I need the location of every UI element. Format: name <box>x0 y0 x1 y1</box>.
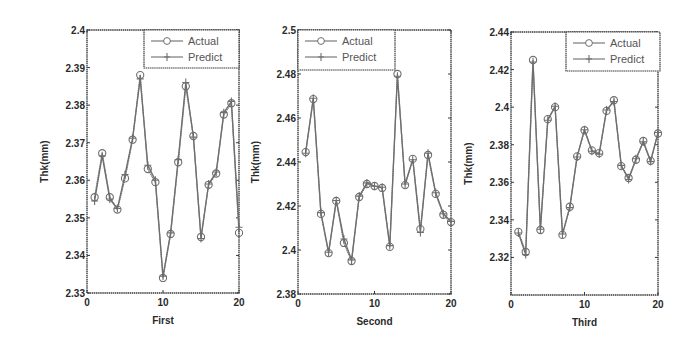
y-tick-label: 2.4 <box>282 245 296 256</box>
legend: ActualPredict <box>298 30 395 70</box>
y-tick-label: 2.38 <box>66 100 86 111</box>
legend-label: Actual <box>610 37 641 49</box>
y-tick-label: 2.35 <box>66 213 86 224</box>
legend-circle-icon <box>318 38 325 45</box>
x-tick-label: 20 <box>652 299 664 310</box>
y-tick-label: 2.44 <box>490 27 510 38</box>
x-axis-title: Third <box>572 317 597 328</box>
y-axis-title: Thk(mm) <box>39 140 50 182</box>
legend-circle-icon <box>164 38 171 45</box>
legend-label: Predict <box>342 51 376 63</box>
y-tick-label: 2.4 <box>495 102 509 113</box>
x-tick-label: 10 <box>157 297 169 308</box>
y-tick-label: 2.38 <box>277 289 297 300</box>
legend-label: Actual <box>188 35 219 47</box>
y-tick-label: 2.46 <box>277 113 297 124</box>
x-tick-label: 10 <box>579 299 591 310</box>
y-tick-label: 2.4 <box>71 25 85 36</box>
x-tick-label: 20 <box>445 298 457 309</box>
y-tick-label: 2.34 <box>66 250 86 261</box>
plot-frame <box>87 30 239 293</box>
y-tick-label: 2.34 <box>490 215 510 226</box>
x-axis-title: First <box>152 315 174 326</box>
chart-first: 2.332.342.352.362.372.382.392.401020Firs… <box>39 25 245 326</box>
figure: 2.332.342.352.362.372.382.392.401020Firs… <box>0 0 692 344</box>
y-tick-label: 2.5 <box>282 25 296 36</box>
y-tick-label: 2.37 <box>66 138 86 149</box>
legend-label: Predict <box>610 53 644 65</box>
y-tick-label: 2.36 <box>490 177 510 188</box>
x-axis-title: Second <box>356 316 392 327</box>
legend: ActualPredict <box>144 30 239 68</box>
y-tick-label: 2.36 <box>66 175 86 186</box>
legend-circle-icon <box>586 40 593 47</box>
x-tick-label: 20 <box>233 297 245 308</box>
chart-second: 2.382.42.422.442.462.482.501020SecondThk… <box>250 25 457 327</box>
y-tick-label: 2.39 <box>66 63 86 74</box>
y-tick-label: 2.42 <box>490 65 510 76</box>
y-tick-label: 2.32 <box>490 252 510 263</box>
figure-canvas: 2.332.342.352.362.372.382.392.401020Firs… <box>0 0 692 344</box>
x-tick-label: 0 <box>84 297 90 308</box>
legend-label: Actual <box>342 35 373 47</box>
y-axis-title: Thk(mm) <box>250 141 261 183</box>
x-tick-label: 0 <box>508 299 514 310</box>
y-tick-label: 2.42 <box>277 201 297 212</box>
legend: ActualPredict <box>566 32 660 71</box>
x-tick-label: 0 <box>295 298 301 309</box>
x-tick-label: 10 <box>369 298 381 309</box>
y-tick-label: 2.33 <box>66 288 86 299</box>
y-tick-label: 2.38 <box>490 140 510 151</box>
chart-third: 2.322.342.362.382.42.422.4401020ThirdThk… <box>463 27 664 328</box>
y-tick-label: 2.44 <box>277 157 297 168</box>
y-axis-title: Thk(mm) <box>463 142 474 184</box>
y-tick-label: 2.48 <box>277 69 297 80</box>
legend-label: Predict <box>188 51 222 63</box>
